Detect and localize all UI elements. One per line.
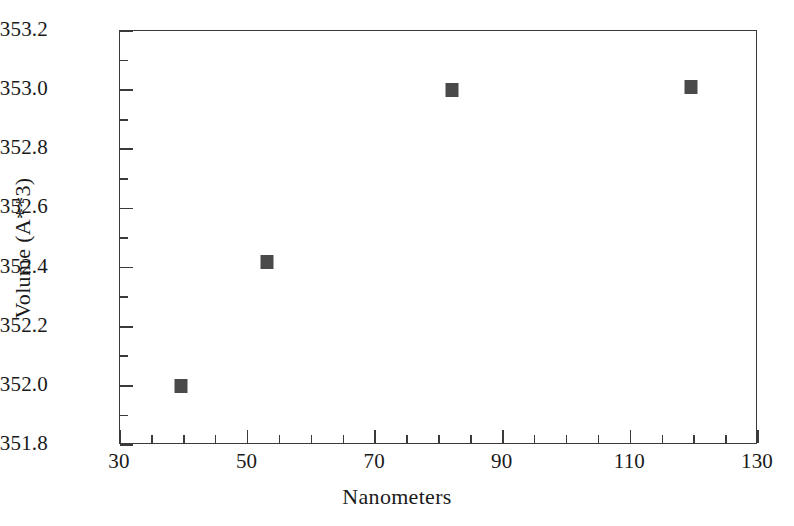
x-tick-major — [502, 430, 504, 443]
y-tick-label: 353.0 — [0, 78, 48, 99]
scatter-plot-figure: Volume (A**3) Nanometers 351.8352.0352.2… — [0, 0, 794, 526]
y-tick-major — [120, 89, 133, 91]
x-tick-label: 50 — [207, 451, 287, 472]
x-tick-major — [119, 430, 121, 443]
y-tick-minor — [120, 296, 128, 298]
x-tick-minor — [470, 435, 472, 443]
y-tick-minor — [120, 415, 128, 417]
plot-area — [119, 30, 757, 444]
x-tick-minor — [279, 435, 281, 443]
x-tick-minor — [438, 435, 440, 443]
data-point-marker — [260, 255, 273, 269]
x-tick-major — [247, 430, 249, 443]
x-axis-title: Nanometers — [0, 484, 794, 510]
x-tick-minor — [566, 435, 568, 443]
y-tick-minor — [120, 119, 128, 121]
y-tick-label: 353.2 — [0, 19, 48, 40]
x-tick-major — [757, 430, 759, 443]
y-tick-label: 352.0 — [0, 374, 48, 395]
y-tick-label: 351.8 — [0, 433, 48, 454]
x-tick-minor — [662, 435, 664, 443]
y-tick-label: 352.6 — [0, 196, 48, 217]
x-tick-minor — [311, 435, 313, 443]
x-tick-minor — [406, 435, 408, 443]
data-point-marker — [445, 83, 458, 97]
x-tick-label: 30 — [79, 451, 159, 472]
y-tick-label: 352.2 — [0, 315, 48, 336]
x-tick-label: 130 — [717, 451, 794, 472]
y-tick-minor — [120, 60, 128, 62]
y-tick-major — [120, 148, 133, 150]
y-tick-label: 352.8 — [0, 137, 48, 158]
y-tick-major — [120, 444, 133, 446]
x-tick-minor — [534, 435, 536, 443]
x-tick-minor — [215, 435, 217, 443]
y-tick-major — [120, 208, 133, 210]
y-tick-major — [120, 326, 133, 328]
x-tick-major — [374, 430, 376, 443]
y-tick-label: 352.4 — [0, 256, 48, 277]
x-tick-minor — [693, 435, 695, 443]
y-tick-major — [120, 30, 133, 32]
x-tick-minor — [343, 435, 345, 443]
x-tick-minor — [151, 435, 153, 443]
x-tick-label: 90 — [462, 451, 542, 472]
x-tick-label: 110 — [589, 451, 669, 472]
y-tick-major — [120, 385, 133, 387]
y-tick-major — [120, 267, 133, 269]
data-point-marker — [685, 80, 698, 94]
y-tick-minor — [120, 178, 128, 180]
y-tick-minor — [120, 237, 128, 239]
y-tick-minor — [120, 355, 128, 357]
data-point-marker — [174, 379, 187, 393]
x-tick-minor — [183, 435, 185, 443]
x-tick-label: 70 — [334, 451, 414, 472]
x-tick-major — [630, 430, 632, 443]
x-tick-minor — [598, 435, 600, 443]
x-tick-minor — [725, 435, 727, 443]
